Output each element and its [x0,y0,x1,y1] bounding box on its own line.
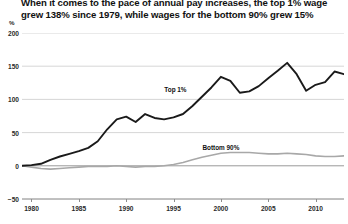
x-tick-mark [268,199,269,202]
y-tick-label: 150 [8,63,19,70]
x-tick-label: 2005 [261,205,276,212]
x-tick-label: 1980 [24,205,39,212]
y-tick-label: 100 [8,96,19,103]
chart-title-line-2: grew 138% since 1979, while wages for th… [21,9,345,21]
series-line [22,63,344,166]
plot-area: 200150100500−50 198019851990199520002005… [22,33,344,199]
chart-title: When it comes to the pace of annual pay … [21,0,345,20]
x-tick-mark [31,199,32,202]
x-tick-label: 1995 [166,205,181,212]
chart-figure: When it comes to the pace of annual pay … [0,0,348,224]
series-line [22,153,344,170]
x-tick-label: 2010 [308,205,323,212]
series-label-top-1-percent: Top 1% [164,86,186,93]
x-tick-mark [79,199,80,202]
y-axis-unit-label: % [9,19,15,26]
series-label-bottom-90-percent: Bottom 90% [202,144,239,151]
y-tick-label: 200 [8,30,19,37]
x-tick-mark [126,199,127,202]
x-tick-mark [174,199,175,202]
series-lines [22,33,344,203]
x-tick-label: 1990 [119,205,134,212]
x-tick-label: 1985 [71,205,86,212]
x-tick-mark [316,199,317,202]
x-tick-label: 2000 [214,205,229,212]
chart-title-line-1: When it comes to the pace of annual pay … [21,0,345,9]
x-tick-mark [221,199,222,202]
y-tick-label: 0 [15,162,19,169]
y-tick-label: 50 [12,129,19,136]
y-tick-label: −50 [8,196,19,203]
